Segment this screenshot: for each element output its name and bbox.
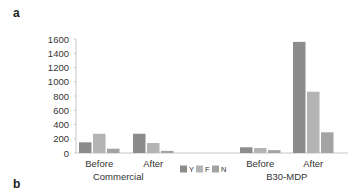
bar-n: [107, 149, 120, 153]
bar-y: [293, 42, 306, 153]
bar-n: [321, 132, 334, 153]
bar-n: [161, 151, 174, 153]
y-tick-label: 200: [53, 133, 69, 144]
y-tick-label: 600: [53, 105, 69, 116]
legend-label-f: F: [205, 165, 210, 174]
legend-swatch-f: [196, 166, 203, 173]
y-tick-label: 0: [64, 148, 69, 159]
bar-f: [254, 148, 267, 153]
bar-f: [307, 92, 320, 153]
bar-y: [79, 142, 92, 153]
group-label: Commercial: [93, 171, 144, 182]
y-tick-label: 800: [53, 91, 69, 102]
bar-y: [133, 134, 146, 153]
y-tick-label: 400: [53, 119, 69, 130]
bar-y: [240, 147, 253, 153]
x-tick-label: Before: [85, 158, 113, 169]
y-tick-label: 1200: [48, 62, 69, 73]
y-tick-label: 1400: [48, 48, 69, 59]
bar-f: [147, 143, 160, 153]
bar-chart: 02004006008001000120014001600BeforeAfter…: [0, 0, 353, 195]
x-tick-label: After: [303, 158, 323, 169]
x-tick-label: Before: [246, 158, 274, 169]
legend-swatch-y: [180, 166, 187, 173]
bar-n: [268, 150, 281, 153]
x-tick-label: After: [143, 158, 163, 169]
bar-f: [93, 134, 106, 153]
group-label: B30-MDP: [266, 171, 307, 182]
legend-swatch-n: [212, 166, 219, 173]
legend-label-y: Y: [189, 165, 194, 174]
y-tick-label: 1000: [48, 76, 69, 87]
legend-label-n: N: [221, 165, 226, 174]
y-tick-label: 1600: [48, 34, 69, 45]
